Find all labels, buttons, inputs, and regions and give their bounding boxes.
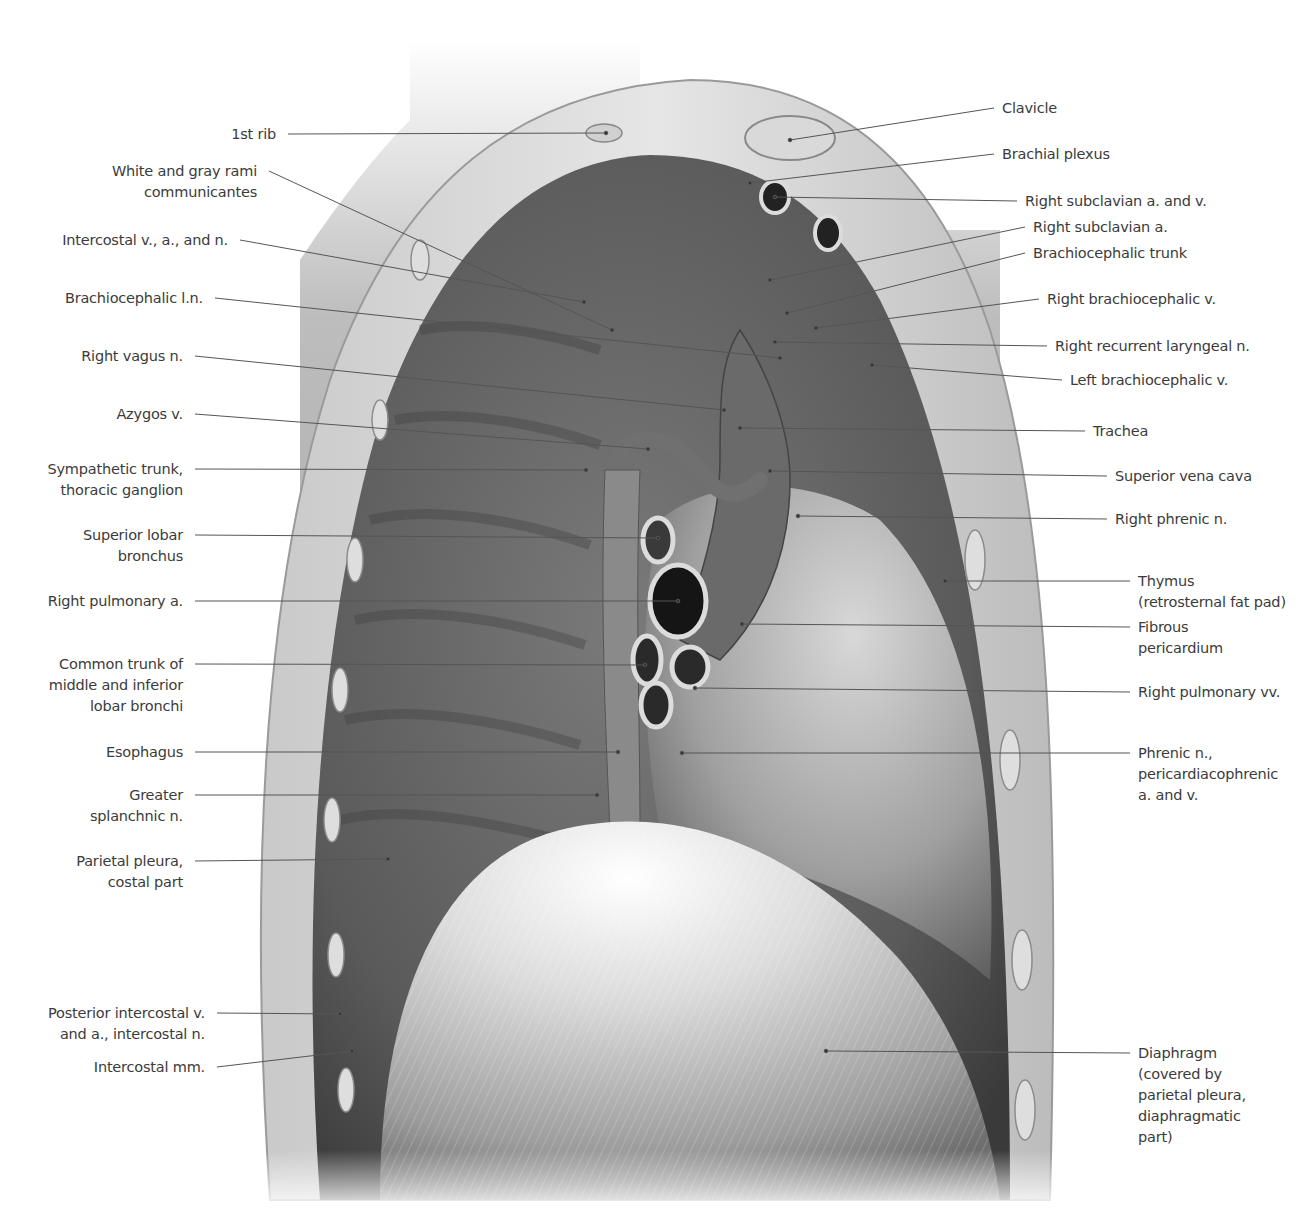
anatomy-figure: 1st ribWhite and gray rami communicantes…	[0, 0, 1316, 1215]
leader-dot-azygos	[646, 447, 650, 451]
leader-dot-superior-lobar-bronchus	[656, 536, 660, 540]
label-greater-splanchnic: Greater splanchnic n.	[90, 785, 183, 827]
leader-dot-rami-communicantes	[610, 328, 614, 332]
label-phrenic-pericardiacophrenic: Phrenic n., pericardiacophrenic a. and v…	[1138, 743, 1278, 806]
leader-dot-diaphragm	[824, 1049, 828, 1053]
leader-dot-right-recurrent-laryngeal	[773, 340, 777, 344]
label-fibrous-pericardium: Fibrous pericardium	[1138, 617, 1223, 659]
label-right-subclavian-av: Right subclavian a. and v.	[1025, 191, 1207, 212]
label-right-recurrent-laryngeal: Right recurrent laryngeal n.	[1055, 336, 1250, 357]
label-brachiocephalic-ln: Brachiocephalic l.n.	[65, 288, 203, 309]
leader-dot-phrenic-pericardiacophrenic	[680, 751, 684, 755]
leader-dot-brachiocephalic-ln	[778, 356, 782, 360]
label-sympathetic-trunk: Sympathetic trunk, thoracic ganglion	[47, 459, 183, 501]
leader-dot-brachial-plexus	[748, 181, 752, 185]
label-azygos: Azygos v.	[116, 404, 183, 425]
leader-dot-right-phrenic	[796, 514, 800, 518]
leader-dot-brachiocephalic-trunk	[785, 311, 789, 315]
leader-dot-first-rib	[604, 131, 608, 135]
leader-dot-right-subclavian-a	[768, 278, 772, 282]
leader-dot-intercostal-mm	[350, 1049, 354, 1053]
label-right-vagus: Right vagus n.	[81, 346, 183, 367]
label-diaphragm: Diaphragm (covered by parietal pleura, d…	[1138, 1043, 1246, 1148]
leader-dot-sympathetic-trunk	[584, 468, 588, 472]
label-clavicle: Clavicle	[1002, 98, 1057, 119]
label-superior-vena-cava: Superior vena cava	[1115, 466, 1252, 487]
label-thymus: Thymus (retrosternal fat pad)	[1138, 571, 1286, 613]
label-right-brachiocephalic-v: Right brachiocephalic v.	[1047, 289, 1216, 310]
leader-dot-trachea	[738, 426, 742, 430]
label-right-phrenic: Right phrenic n.	[1115, 509, 1227, 530]
leader-dot-fibrous-pericardium	[740, 622, 744, 626]
label-brachial-plexus: Brachial plexus	[1002, 144, 1110, 165]
leader-dot-right-vagus	[722, 408, 726, 412]
label-brachiocephalic-trunk: Brachiocephalic trunk	[1033, 243, 1187, 264]
label-left-brachiocephalic-v: Left brachiocephalic v.	[1070, 370, 1228, 391]
label-superior-lobar-bronchus: Superior lobar bronchus	[83, 525, 183, 567]
label-rami-communicantes: White and gray rami communicantes	[112, 161, 257, 203]
label-parietal-pleura-costal: Parietal pleura, costal part	[76, 851, 183, 893]
label-first-rib: 1st rib	[231, 124, 276, 145]
leader-dot-parietal-pleura-costal	[386, 857, 390, 861]
leader-dot-thymus	[943, 579, 947, 583]
leader-dot-esophagus	[616, 750, 620, 754]
label-common-trunk-bronchi: Common trunk of middle and inferior loba…	[49, 654, 183, 717]
leader-dot-posterior-intercostal	[338, 1012, 342, 1016]
leader-dot-intercostal-van	[582, 300, 586, 304]
leader-dot-clavicle	[788, 138, 792, 142]
label-intercostal-van: Intercostal v., a., and n.	[62, 230, 228, 251]
leader-dot-right-brachiocephalic-v	[814, 326, 818, 330]
label-intercostal-mm: Intercostal mm.	[94, 1057, 205, 1078]
label-right-subclavian-a: Right subclavian a.	[1033, 217, 1168, 238]
label-esophagus: Esophagus	[106, 742, 183, 763]
label-right-pulmonary-a: Right pulmonary a.	[48, 591, 183, 612]
label-trachea: Trachea	[1093, 421, 1148, 442]
leader-dot-superior-vena-cava	[768, 469, 772, 473]
leader-dot-right-subclavian-av	[773, 195, 777, 199]
label-right-pulmonary-vv: Right pulmonary vv.	[1138, 682, 1280, 703]
leader-dot-common-trunk-bronchi	[643, 663, 647, 667]
leader-dot-right-pulmonary-a	[676, 599, 680, 603]
leader-dot-left-brachiocephalic-v	[870, 363, 874, 367]
leader-dot-right-pulmonary-vv	[693, 686, 697, 690]
leader-dot-greater-splanchnic	[595, 793, 599, 797]
label-posterior-intercostal: Posterior intercostal v. and a., interco…	[48, 1003, 205, 1045]
